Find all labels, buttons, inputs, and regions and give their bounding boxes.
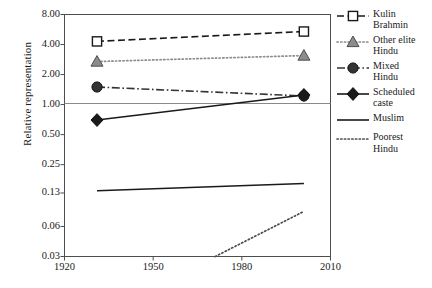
legend-marker-icon <box>348 11 357 20</box>
x-tick-label: 1950 <box>123 261 183 272</box>
series-line <box>97 32 304 42</box>
series-marker <box>92 82 102 92</box>
legend-label-line: caste <box>373 97 415 108</box>
series-marker <box>299 27 308 36</box>
legend-label-line: Kulin <box>373 8 408 19</box>
x-axis-tickmarks <box>65 257 331 261</box>
legend-label-line: Mixed <box>373 60 399 71</box>
series-line <box>97 95 304 120</box>
series-kulin-brahmin <box>92 27 308 46</box>
series-marker <box>92 37 101 46</box>
series-line <box>97 87 304 96</box>
series-line <box>215 211 304 256</box>
legend-swatch-icon <box>336 34 370 50</box>
series-muslim <box>97 183 304 190</box>
x-tick-label: 1920 <box>35 261 95 272</box>
series-layer <box>91 27 310 257</box>
legend-label: MixedHindu <box>370 60 399 83</box>
y-axis-title: Relative representation <box>21 9 33 179</box>
series-line <box>97 56 304 62</box>
legend-swatch-icon <box>336 86 370 102</box>
legend-swatch-icon <box>336 112 370 128</box>
plot-frame <box>65 15 331 257</box>
legend-label-line: Hindu <box>373 71 399 82</box>
legend-label-line: Brahmin <box>373 19 408 30</box>
series-line <box>97 183 304 190</box>
series-other-elite-hindu <box>91 50 310 67</box>
x-tick-label: 1980 <box>212 261 272 272</box>
y-tick-label: 0.03 <box>20 251 60 261</box>
legend-marker-icon <box>348 63 358 73</box>
legend-item: Muslim <box>336 112 432 128</box>
legend-item: Scheduledcaste <box>336 86 432 109</box>
legend-label: PoorestHindu <box>370 131 403 154</box>
x-tick-label: 2010 <box>301 261 361 272</box>
series-poorest-hindu <box>215 211 304 256</box>
legend-item: PoorestHindu <box>336 131 432 154</box>
legend-label-line: Hindu <box>373 45 415 56</box>
legend-label: Scheduledcaste <box>370 86 415 109</box>
y-tick-label: 0.13 <box>20 187 60 197</box>
legend-label-line: Scheduled <box>373 86 415 97</box>
series-marker <box>298 50 310 61</box>
legend-label-line: Muslim <box>373 112 404 123</box>
legend-label-line: Other elite <box>373 34 415 45</box>
legend-marker-icon <box>347 88 359 101</box>
y-tick-label: 0.06 <box>20 221 60 231</box>
y-axis-tickmarks <box>61 15 65 257</box>
legend-label-line: Poorest <box>373 131 403 142</box>
legend-label: KulinBrahmin <box>370 8 408 31</box>
legend-item: Other eliteHindu <box>336 34 432 57</box>
legend-label: Other eliteHindu <box>370 34 415 57</box>
series-marker <box>91 114 103 127</box>
legend-swatch-icon <box>336 8 370 24</box>
legend-swatch-icon <box>336 131 370 147</box>
legend-swatch-icon <box>336 60 370 76</box>
legend-label-line: Hindu <box>373 143 403 154</box>
legend-item: KulinBrahmin <box>336 8 432 31</box>
legend-label: Muslim <box>370 112 404 123</box>
chart-legend: KulinBrahminOther eliteHinduMixedHinduSc… <box>336 8 432 157</box>
legend-item: MixedHindu <box>336 60 432 83</box>
